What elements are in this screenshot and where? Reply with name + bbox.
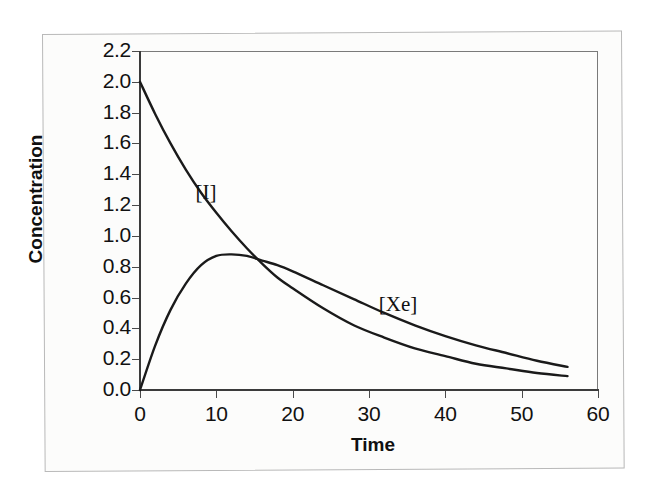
y-axis-tick (132, 267, 139, 268)
x-axis-tick (598, 391, 599, 398)
y-axis-tick (132, 174, 139, 175)
x-axis-tick-label: 0 (134, 402, 145, 426)
y-axis-tick-label: 0.2 (103, 346, 131, 370)
y-axis-tick-label: 1.8 (103, 100, 131, 124)
y-axis-tick (132, 328, 139, 329)
y-axis-tick-label: 0.6 (103, 285, 131, 309)
x-axis-tick-label: 30 (358, 402, 381, 426)
y-axis-tick (132, 113, 139, 114)
y-axis-tick (132, 390, 139, 391)
x-axis-tick (445, 391, 446, 398)
y-axis-tick-label: 1.6 (103, 130, 131, 154)
y-axis-tick-label: 1.2 (103, 192, 131, 216)
y-axis-tick-label: 0.0 (103, 377, 131, 401)
y-axis-tick (132, 359, 139, 360)
y-axis-tick-label: 1.0 (103, 223, 131, 247)
x-axis-tick (216, 391, 217, 398)
y-axis-tick (132, 205, 139, 206)
x-axis-tick (369, 391, 370, 398)
x-axis-title: Time (313, 434, 433, 456)
x-axis-tick (140, 391, 141, 398)
y-axis-tick-label: 2.2 (103, 38, 131, 62)
x-axis-tick-label: 40 (434, 402, 457, 426)
x-axis-tick-label: 50 (510, 402, 533, 426)
y-axis-tick-label: 0.8 (103, 254, 131, 278)
y-axis-title: Concentration (25, 119, 47, 279)
series-label-iodine: [I] (196, 180, 217, 205)
x-axis-tick-label: 60 (587, 402, 610, 426)
series-label-xenon: [Xe] (379, 292, 417, 317)
y-axis-tick (132, 298, 139, 299)
y-axis-tick (132, 236, 139, 237)
x-axis-tick-labels: 0102030405060 (0, 402, 647, 432)
chart-page: 0.00.20.40.60.81.01.21.41.61.82.02.2 010… (0, 0, 647, 486)
x-axis-tick (522, 391, 523, 398)
y-axis-tick (132, 51, 139, 52)
plot-area-border (139, 51, 598, 390)
y-axis-tick-label: 2.0 (103, 69, 131, 93)
y-axis-tick (132, 143, 139, 144)
y-axis-line (139, 51, 141, 391)
x-axis-tick-label: 20 (281, 402, 304, 426)
x-axis-tick-label: 10 (205, 402, 228, 426)
y-axis-tick-label: 1.4 (103, 161, 131, 185)
y-axis-tick (132, 82, 139, 83)
y-axis-tick-label: 0.4 (103, 315, 131, 339)
x-axis-tick (293, 391, 294, 398)
